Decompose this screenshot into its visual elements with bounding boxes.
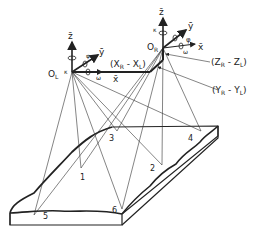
left-omega-label: ω [96, 74, 101, 81]
right-z-label: z̄ [159, 7, 164, 17]
left-labels: z̄ ȳ x̄ OL κ φ ω [48, 31, 119, 84]
offset-leaders [158, 54, 218, 90]
right-origin-label: OR [147, 42, 158, 53]
left-kappa-label: κ [64, 68, 68, 75]
right-y-label: ȳ [188, 21, 194, 31]
point-5-label: 5 [43, 212, 48, 221]
right-labels: z̄ ȳ x̄ OR κ φ ω [147, 7, 204, 55]
stereo-photogrammetry-diagram: z̄ ȳ x̄ OL κ φ ω z̄ ȳ x̄ OR κ φ ω (XR - … [0, 0, 261, 244]
right-phi-label: φ [186, 36, 191, 44]
left-z-label: z̄ [68, 31, 73, 41]
point-4-label: 4 [188, 134, 193, 143]
point-6-label: 6 [112, 206, 117, 215]
left-camera-axes [68, 42, 102, 75]
left-rays [34, 72, 201, 215]
right-x-label: x̄ [198, 42, 204, 52]
y-offset-label: (YR - YL) [212, 85, 247, 96]
point-3-label: 3 [109, 134, 114, 143]
right-omega-label: ω [183, 48, 188, 55]
point-1-label: 1 [80, 173, 85, 182]
left-x-label: x̄ [113, 74, 119, 84]
ground-point-labels: 1 2 3 4 5 6 [43, 134, 193, 221]
x-offset-label: (XR - XL) [110, 59, 146, 70]
diagram-canvas: z̄ ȳ x̄ OL κ φ ω z̄ ȳ x̄ OR κ φ ω (XR - … [0, 0, 261, 244]
left-y-label: ȳ [99, 47, 105, 57]
right-kappa-label: κ [153, 26, 157, 33]
point-2-label: 2 [150, 164, 155, 173]
z-offset-label: (ZR - ZL) [211, 57, 247, 68]
left-phi-label: φ [86, 52, 90, 60]
left-origin-label: OL [48, 69, 59, 80]
